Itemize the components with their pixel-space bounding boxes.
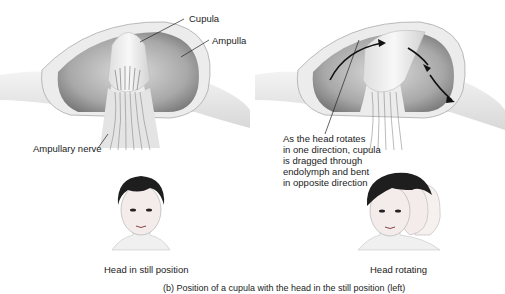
label-ampullary-nerve: Ampullary nerve: [33, 143, 102, 154]
label-rotation-note: As the head rotates in one direction, cu…: [283, 133, 381, 188]
label-head-rotating: Head rotating: [370, 264, 427, 275]
figure-caption: (b) Position of a cupula with the head i…: [163, 283, 405, 294]
ampulla-rotating: [255, 22, 505, 150]
label-head-still: Head in still position: [104, 264, 189, 275]
label-cupula: Cupula: [189, 13, 219, 24]
label-ampulla: Ampulla: [212, 35, 246, 46]
face-still: [112, 176, 170, 250]
